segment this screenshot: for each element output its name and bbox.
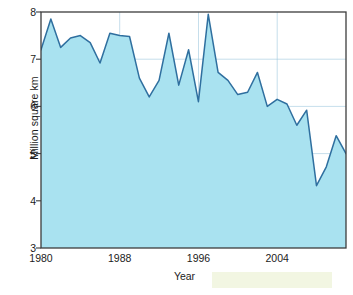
x-tick-1980: 1980 <box>18 252 64 264</box>
x-tick-1996: 1996 <box>176 252 222 264</box>
scan-highlight-mark <box>212 272 332 288</box>
figure-panel: paragraphs from the reverse of this prin… <box>0 0 353 295</box>
x-axis-title-text: Year <box>174 270 195 282</box>
x-tick-2004: 2004 <box>254 252 300 264</box>
x-tick-1988: 1988 <box>97 252 143 264</box>
x-axis-tick-labels: 1980 1988 1996 2004 <box>0 0 353 295</box>
